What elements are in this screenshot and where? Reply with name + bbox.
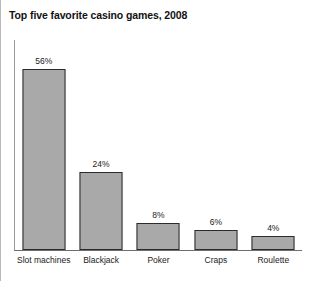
chart-title: Top five favorite casino games, 2008 bbox=[9, 9, 187, 21]
bar-rect[interactable] bbox=[137, 223, 180, 250]
bar-column: 8% bbox=[137, 211, 180, 251]
bar-rect[interactable] bbox=[194, 230, 237, 250]
x-axis-tick-label: Craps bbox=[205, 255, 228, 265]
bar-column: 6% bbox=[194, 218, 237, 251]
bar-slot: 24% bbox=[72, 40, 129, 250]
x-axis-tick-label: Roulette bbox=[257, 255, 289, 265]
x-axis-tick-label: Blackjack bbox=[83, 255, 119, 265]
bar-value-label: 56% bbox=[35, 57, 52, 66]
bar-value-label: 8% bbox=[152, 211, 164, 220]
bar-rect[interactable] bbox=[252, 236, 295, 250]
x-axis-tick-label: Slot machines bbox=[17, 255, 70, 265]
bar-column: 24% bbox=[80, 160, 123, 251]
bar-value-label: 6% bbox=[210, 218, 222, 227]
bar-slot: 6% bbox=[187, 40, 244, 250]
chart-figure: Top five favorite casino games, 2008 56%… bbox=[0, 0, 314, 281]
x-axis-labels: Slot machines Blackjack Poker Craps Roul… bbox=[15, 255, 303, 271]
bar-value-label: 24% bbox=[93, 160, 110, 169]
bar-series: 56% 24% 8% 6% bbox=[15, 40, 302, 250]
bar-column: 56% bbox=[22, 57, 65, 251]
bar-rect[interactable] bbox=[22, 69, 65, 250]
bar-slot: 4% bbox=[245, 40, 302, 250]
x-axis-line bbox=[14, 250, 302, 251]
bar-slot: 56% bbox=[15, 40, 72, 250]
x-axis-tick-label: Poker bbox=[147, 255, 169, 265]
bar-column: 4% bbox=[252, 224, 295, 251]
bar-value-label: 4% bbox=[267, 224, 279, 233]
plot-area: 56% 24% 8% 6% bbox=[14, 40, 306, 251]
figure-left-rule bbox=[0, 0, 1, 281]
bar-slot: 8% bbox=[130, 40, 187, 250]
bar-rect[interactable] bbox=[80, 172, 123, 250]
